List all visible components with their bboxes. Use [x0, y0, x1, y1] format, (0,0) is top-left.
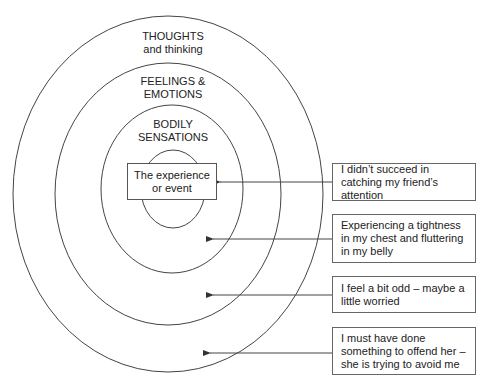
label-bodily: BODILY SENSATIONS — [133, 118, 213, 144]
label-bodily-line2: SENSATIONS — [133, 131, 213, 144]
label-feelings-line1: FEELINGS & — [133, 75, 213, 88]
note-bodily: Experiencing a tightness in my chest and… — [332, 214, 476, 263]
label-thoughts: THOUGHTS and thinking — [138, 30, 208, 56]
note-bodily-text: Experiencing a tightness in my chest and… — [341, 219, 467, 258]
label-feelings-line2: EMOTIONS — [133, 88, 213, 101]
label-bodily-line1: BODILY — [133, 118, 213, 131]
center-line2: or event — [134, 182, 210, 195]
label-thoughts-line1: THOUGHTS — [138, 30, 208, 43]
note-feelings-text: I feel a bit odd – maybe a little worrie… — [341, 282, 467, 308]
note-thoughts-text: I must have done something to offend her… — [341, 332, 467, 371]
note-feelings: I feel a bit odd – maybe a little worrie… — [332, 276, 476, 313]
note-thoughts: I must have done something to offend her… — [332, 327, 476, 375]
experience-event-box: The experience or event — [127, 163, 217, 200]
note-event-text: I didn’t succeed in catching my friend’s… — [341, 163, 467, 202]
note-event: I didn’t succeed in catching my friend’s… — [332, 163, 476, 201]
label-feelings: FEELINGS & EMOTIONS — [133, 75, 213, 101]
label-thoughts-line2: and thinking — [138, 43, 208, 56]
center-line1: The experience — [134, 169, 210, 182]
